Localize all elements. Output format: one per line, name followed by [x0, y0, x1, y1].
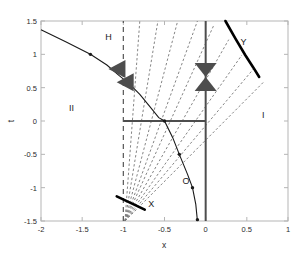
x-tick-label: 0.5 — [242, 225, 252, 234]
x-tick-label: -0.5 — [158, 225, 171, 234]
y-tick-label: 0 — [33, 117, 37, 126]
curve-dot-marker — [191, 186, 194, 189]
y-tick-label: 1.5 — [27, 17, 37, 26]
x-tick-label: -1.5 — [76, 225, 89, 234]
x-axis-tick-labels: -2-1.5-1-0.500.51 — [38, 225, 290, 234]
phase-plane-plot: -2-1.5-1-0.500.51 -1.5-1-0.500.511.5 HII… — [0, 0, 302, 255]
y-tick-label: -0.5 — [24, 150, 37, 159]
x-tick-label: -2 — [38, 225, 45, 234]
x-tick-label: 1 — [286, 225, 290, 234]
region-label-I: I — [262, 110, 265, 120]
figure-container: -2-1.5-1-0.500.51 -1.5-1-0.500.511.5 HII… — [0, 0, 302, 255]
region-label-O: O — [182, 176, 189, 186]
y-tick-label: 1 — [33, 50, 37, 59]
y-tick-label: -1 — [30, 184, 37, 193]
x-tick-label: 0 — [204, 225, 208, 234]
region-label-II: II — [69, 103, 74, 113]
y-tick-label: 0.5 — [27, 84, 37, 93]
y-axis-title: t — [6, 119, 16, 122]
curve-dot-marker — [163, 119, 166, 122]
x-axis-title: x — [162, 240, 167, 250]
y-tick-label: -1.5 — [24, 217, 37, 226]
curve-dot-marker — [196, 218, 199, 221]
region-label-H: H — [105, 32, 112, 42]
y-axis-tick-labels: -1.5-1-0.500.511.5 — [24, 17, 37, 226]
x-tick-label: -1 — [120, 225, 127, 234]
curve-dot-marker — [178, 153, 181, 156]
region-label-X: X — [148, 199, 154, 209]
region-label-Y: Y — [241, 37, 247, 47]
curve-dot-marker — [89, 53, 92, 56]
